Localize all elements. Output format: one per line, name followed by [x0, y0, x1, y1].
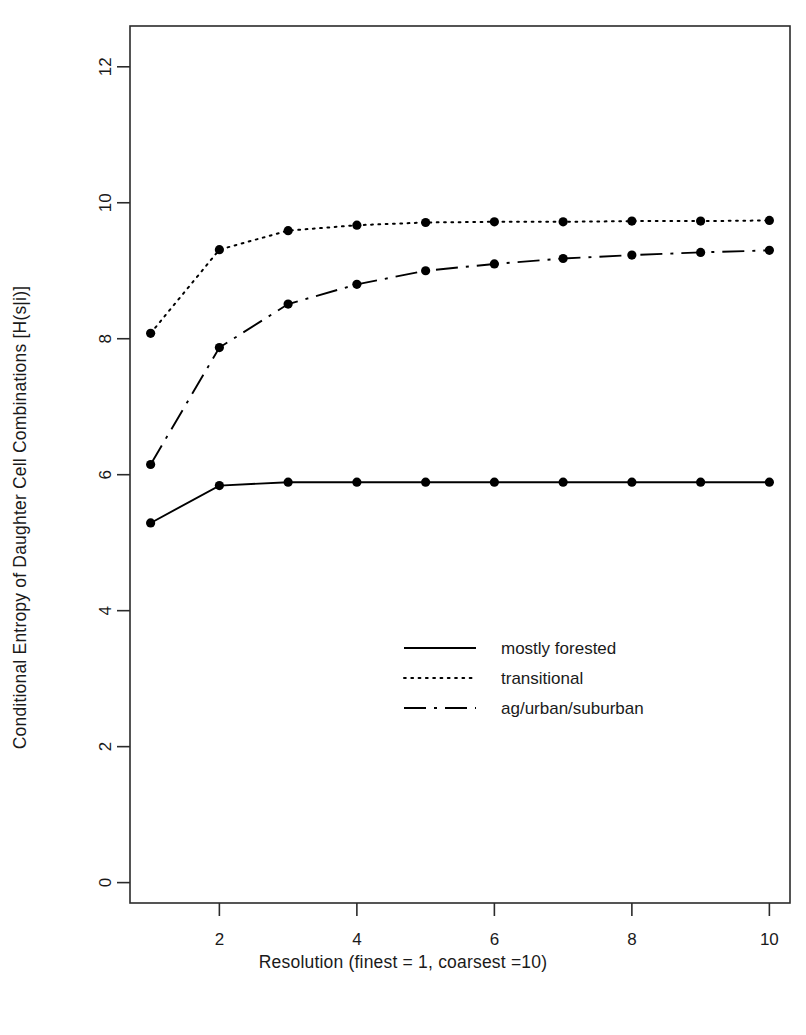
data-point-marker [146, 460, 155, 469]
x-tick-label: 10 [760, 930, 779, 949]
data-point-marker [215, 343, 224, 352]
data-series-group [146, 216, 774, 528]
data-point-marker [559, 254, 568, 263]
data-point-marker [284, 478, 293, 487]
x-axis-ticks: 246810 [215, 903, 779, 949]
data-point-marker [627, 217, 636, 226]
x-tick-label: 8 [627, 930, 636, 949]
series-2 [146, 246, 774, 469]
data-point-marker [559, 478, 568, 487]
data-point-marker [490, 478, 499, 487]
data-point-marker [765, 216, 774, 225]
series-line [151, 250, 770, 464]
data-point-marker [215, 481, 224, 490]
data-point-marker [765, 478, 774, 487]
legend-entry-label: mostly forested [501, 639, 616, 658]
data-point-marker [696, 248, 705, 257]
data-point-marker [627, 251, 636, 260]
data-point-marker [627, 478, 636, 487]
y-tick-label: 12 [97, 57, 116, 76]
series-line [151, 220, 770, 333]
legend-entry-label: transitional [501, 669, 583, 688]
data-point-marker [559, 217, 568, 226]
data-point-marker [146, 518, 155, 527]
data-point-marker [352, 221, 361, 230]
y-tick-label: 10 [97, 193, 116, 212]
y-axis-ticks: 024681012 [97, 57, 131, 887]
x-tick-label: 4 [352, 930, 361, 949]
data-point-marker [215, 245, 224, 254]
legend-entry-label: ag/urban/suburban [501, 699, 644, 718]
data-point-marker [421, 478, 430, 487]
plot-panel-border [130, 26, 790, 903]
data-point-marker [352, 478, 361, 487]
chart-legend: mostly forestedtransitionalag/urban/subu… [404, 639, 644, 718]
data-point-marker [146, 329, 155, 338]
data-point-marker [284, 226, 293, 235]
y-tick-label: 8 [97, 334, 116, 343]
series-0 [146, 478, 774, 528]
y-tick-label: 6 [97, 470, 116, 479]
data-point-marker [696, 217, 705, 226]
series-1 [146, 216, 774, 338]
data-point-marker [421, 266, 430, 275]
data-point-marker [421, 218, 430, 227]
data-point-marker [765, 246, 774, 255]
chart-figure: 024681012 246810 mostly forestedtransiti… [0, 0, 806, 1035]
data-point-marker [284, 299, 293, 308]
series-line [151, 482, 770, 523]
line-chart-svg: 024681012 246810 mostly forestedtransiti… [0, 0, 806, 1035]
y-tick-label: 2 [97, 742, 116, 751]
data-point-marker [490, 259, 499, 268]
x-tick-label: 2 [215, 930, 224, 949]
x-tick-label: 6 [490, 930, 499, 949]
y-tick-label: 0 [97, 878, 116, 887]
data-point-marker [490, 217, 499, 226]
data-point-marker [352, 280, 361, 289]
y-tick-label: 4 [97, 606, 116, 615]
x-axis-label: Resolution (finest = 1, coarsest =10) [0, 952, 806, 973]
data-point-marker [696, 478, 705, 487]
